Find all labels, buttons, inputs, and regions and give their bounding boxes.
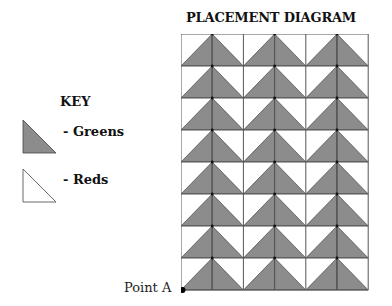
grid-cell (212, 194, 243, 226)
grid-cell (181, 226, 212, 258)
grid-cell (243, 130, 274, 162)
grid-cell (181, 258, 212, 290)
grid-cell (275, 226, 306, 258)
grid-cell (275, 98, 306, 130)
grid-cell (306, 130, 337, 162)
grid-cell (337, 130, 368, 162)
grid-cell (306, 194, 337, 226)
point-a-label: Point A (124, 280, 171, 295)
grid-cell (337, 194, 368, 226)
grid-cell (212, 34, 243, 66)
placement-grid (181, 34, 371, 294)
greens-swatch-icon (22, 119, 58, 155)
grid-cell (275, 258, 306, 290)
grid-cell (337, 226, 368, 258)
key-title: KEY (60, 94, 91, 109)
grid-cell (243, 162, 274, 194)
grid-cell (243, 98, 274, 130)
grid-cell (212, 130, 243, 162)
grid-cell (243, 194, 274, 226)
grid-cell (243, 258, 274, 290)
grid-cell (275, 130, 306, 162)
grid-cell (306, 34, 337, 66)
grid-cell (337, 66, 368, 98)
grid-cell (306, 98, 337, 130)
grid-cell (212, 162, 243, 194)
key-label-greens: - Greens (63, 124, 124, 139)
diagram-title: PLACEMENT DIAGRAM (186, 10, 356, 25)
grid-cell (337, 34, 368, 66)
grid-cell (181, 130, 212, 162)
grid-cell (306, 162, 337, 194)
grid-cell (306, 258, 337, 290)
grid-cell (181, 66, 212, 98)
grid-cell (243, 66, 274, 98)
grid-cell (181, 34, 212, 66)
grid-cell (337, 162, 368, 194)
grid-cell (275, 66, 306, 98)
reds-swatch-icon (22, 168, 58, 204)
grid-cell (181, 162, 212, 194)
grid-cell (337, 258, 368, 290)
grid-cell (306, 226, 337, 258)
grid-cell (181, 98, 212, 130)
grid-cell (275, 34, 306, 66)
grid-cell (212, 226, 243, 258)
grid-cell (306, 66, 337, 98)
key-label-reds: - Reds (63, 172, 108, 187)
grid-cell (212, 258, 243, 290)
grid-cell (212, 66, 243, 98)
grid-cell (275, 194, 306, 226)
grid-cell (212, 98, 243, 130)
grid-cell (181, 194, 212, 226)
grid-cell (243, 226, 274, 258)
grid-cell (337, 98, 368, 130)
grid-cell (275, 162, 306, 194)
grid-cell (243, 34, 274, 66)
